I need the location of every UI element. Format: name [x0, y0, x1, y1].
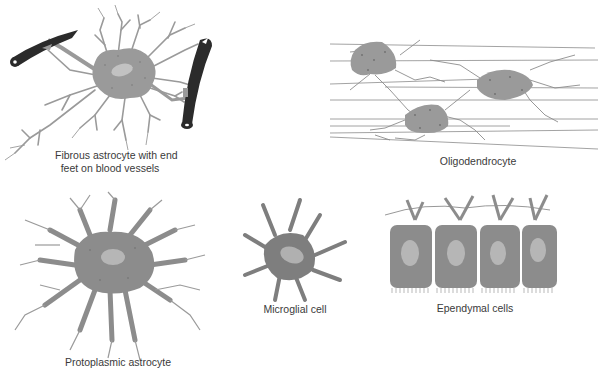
fibrous-astrocyte-panel: Fibrous astrocyte with end feet on blood…	[0, 0, 300, 170]
microglial-cell-panel: Microglial cell	[235, 200, 365, 320]
fibrous-astrocyte-caption-line2: feet on blood vessels	[55, 162, 165, 175]
protoplasmic-astrocyte-caption: Protoplasmic astrocyte	[58, 356, 178, 369]
protoplasmic-astrocyte-illustration	[0, 190, 230, 378]
fibrous-astrocyte-illustration	[0, 0, 300, 170]
microglial-cell-caption: Microglial cell	[255, 303, 335, 316]
oligodendrocyte-panel: Oligodendrocyte	[330, 30, 607, 170]
ependymal-cells-caption: Ependymal cells	[430, 302, 520, 315]
ependymal-cells-illustration	[385, 190, 565, 340]
ependymal-cells-panel: Ependymal cells	[385, 190, 565, 340]
microglial-cell-illustration	[235, 200, 365, 320]
oligodendrocyte-caption: Oligodendrocyte	[438, 155, 518, 168]
protoplasmic-astrocyte-panel: Protoplasmic astrocyte	[0, 190, 230, 378]
fibrous-astrocyte-caption-line1: Fibrous astrocyte with end	[55, 149, 165, 162]
oligodendrocyte-illustration	[330, 30, 607, 170]
